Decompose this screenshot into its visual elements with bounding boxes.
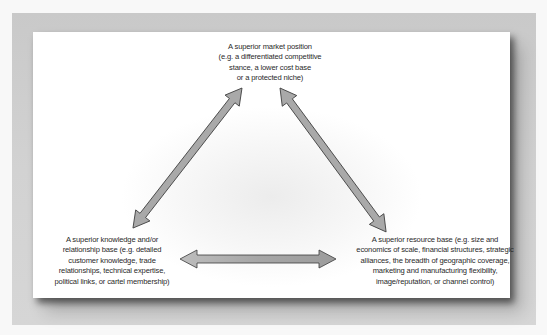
node-line: stance, a lower cost base — [195, 63, 345, 73]
node-line: economics of scale, financial structures… — [345, 245, 525, 255]
node-resource-base: A superior resource base (e.g. size and … — [345, 235, 525, 287]
arrow-top-right — [273, 83, 394, 238]
node-market-position: A superior market position (e.g. a diffe… — [195, 42, 345, 84]
node-line: relationship base (e.g. detailed — [32, 245, 192, 255]
node-line: A superior resource base (e.g. size and — [345, 235, 525, 245]
arrow-left-right — [180, 250, 336, 268]
node-line: or a protected niche) — [195, 73, 345, 83]
node-line: relationships, technical expertise, — [32, 266, 192, 276]
node-line: (e.g. a differentiated competitive — [195, 52, 345, 62]
node-knowledge-base: A superior knowledge and/or relationship… — [32, 235, 192, 287]
node-line: customer knowledge, trade — [32, 256, 192, 266]
node-line: A superior knowledge and/or — [32, 235, 192, 245]
arrow-top-left — [126, 82, 249, 233]
node-line: marketing and manufacturing flexibility, — [345, 266, 525, 276]
node-line: alliances, the breadth of geographic cov… — [345, 256, 525, 266]
node-line: image/reputation, or channel control) — [345, 277, 525, 287]
node-line: political links, or cartel membership) — [32, 277, 192, 287]
node-line: A superior market position — [195, 42, 345, 52]
